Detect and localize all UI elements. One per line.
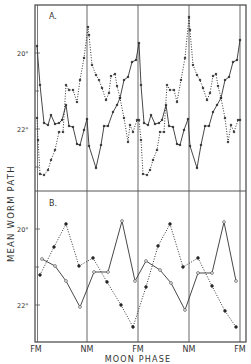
data-point [149, 169, 151, 171]
data-point [58, 131, 60, 133]
data-point [224, 117, 226, 119]
data-point [79, 144, 81, 146]
data-point [78, 265, 81, 268]
data-point [154, 123, 156, 125]
data-point [147, 124, 149, 126]
data-point [53, 246, 56, 249]
data-point [199, 79, 201, 81]
data-point [47, 169, 49, 171]
data-point [138, 119, 140, 121]
data-point [83, 129, 85, 131]
data-point [123, 79, 125, 81]
data-point [228, 76, 230, 78]
data-point [43, 174, 45, 176]
data-point [119, 97, 121, 99]
data-point [157, 245, 160, 248]
y-axis-title: MEAN WORM PATH [6, 165, 16, 262]
data-point [54, 265, 57, 268]
data-point [235, 326, 238, 329]
data-point [65, 280, 68, 283]
series-line-a-dotted [37, 17, 240, 175]
data-point [79, 306, 82, 309]
data-point [224, 79, 226, 81]
data-point [95, 167, 97, 169]
x-tick-3: NM [183, 345, 196, 354]
data-point [68, 125, 70, 127]
data-point [211, 285, 214, 288]
data-point [112, 111, 114, 113]
data-point [146, 174, 148, 176]
data-point [227, 141, 229, 143]
b-tick-22: 22° [17, 302, 29, 310]
data-point [216, 104, 218, 106]
data-point [61, 119, 63, 121]
data-point [136, 119, 138, 121]
data-point [36, 117, 38, 119]
data-point [215, 73, 217, 75]
data-point [88, 145, 90, 147]
data-point [62, 131, 64, 133]
data-point [224, 310, 227, 313]
data-point [180, 79, 182, 81]
data-point [145, 286, 148, 289]
data-point [121, 220, 124, 223]
data-point [120, 304, 123, 307]
moon-phase-chart: A. B. 20° 22° 20° 22° MEAN WORM PATH FM … [0, 0, 251, 364]
data-point [176, 143, 178, 145]
data-point [103, 125, 105, 127]
data-point [173, 89, 175, 91]
data-point [93, 271, 96, 274]
data-point [129, 124, 131, 126]
data-point [223, 221, 226, 224]
data-point [83, 57, 85, 59]
series-line-b-solid [42, 221, 236, 310]
data-point [91, 64, 93, 66]
panel-a-label: A. [49, 12, 57, 21]
data-point [206, 99, 208, 101]
data-point [65, 84, 67, 86]
data-point [237, 119, 239, 121]
data-point [41, 258, 44, 261]
data-point [65, 104, 67, 106]
data-point [65, 223, 68, 226]
data-point [217, 85, 219, 87]
a-tick-20: 20° [17, 50, 29, 58]
data-point [239, 119, 241, 121]
data-point [39, 274, 42, 277]
data-point [43, 122, 45, 124]
data-point [208, 125, 210, 127]
data-point [116, 104, 118, 106]
data-point [54, 149, 56, 151]
data-point [138, 42, 140, 44]
data-point [166, 84, 168, 86]
panel-b-label: B. [49, 199, 57, 208]
data-point [172, 126, 174, 128]
data-point [220, 97, 222, 99]
data-point [197, 272, 200, 275]
data-point [135, 59, 137, 61]
data-point [95, 74, 97, 76]
data-point [140, 139, 142, 141]
data-point [239, 39, 241, 41]
data-point [107, 125, 109, 127]
data-point [47, 124, 49, 126]
data-point [143, 122, 145, 124]
data-point [183, 129, 185, 131]
data-point [159, 131, 161, 133]
data-point [58, 122, 60, 124]
data-point [132, 326, 135, 329]
data-point [92, 257, 95, 260]
data-point [86, 118, 88, 120]
data-point [127, 76, 129, 78]
data-point [197, 257, 200, 260]
data-point [68, 89, 70, 91]
data-point [209, 92, 211, 94]
data-point [105, 99, 107, 101]
data-point [156, 149, 158, 151]
phase-gridlines [87, 5, 240, 342]
data-point [106, 281, 109, 284]
data-point [36, 45, 38, 47]
data-point [100, 144, 102, 146]
data-point [169, 223, 172, 226]
x-tick-4: FM [234, 345, 246, 354]
